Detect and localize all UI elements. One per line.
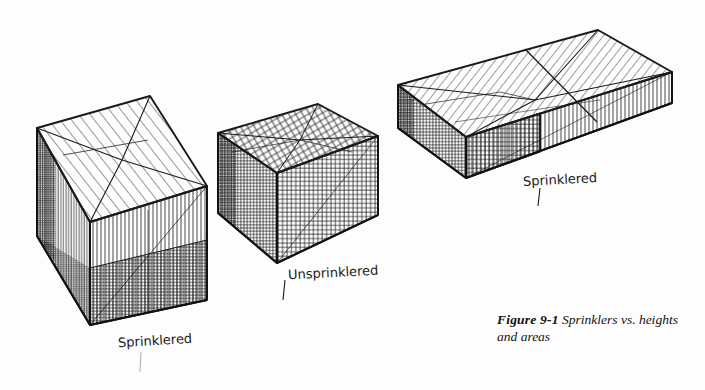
box-2-unsprinklered xyxy=(218,104,378,263)
box-3-label-leader xyxy=(538,188,540,206)
figure-caption-label: Figure 9-1 xyxy=(497,312,559,327)
box-2-label-leader xyxy=(283,280,285,300)
box-1-sprinklered xyxy=(0,0,207,325)
figure-caption: Figure 9-1 Sprinklers vs. heights and ar… xyxy=(497,311,697,345)
box-3-sprinklered xyxy=(398,30,672,178)
box-1-label-leader xyxy=(140,352,141,372)
figure-canvas: Sprinklered Unsprinklered Sprinklered Fi… xyxy=(0,0,705,390)
box-2-left-face-shade xyxy=(218,133,236,228)
